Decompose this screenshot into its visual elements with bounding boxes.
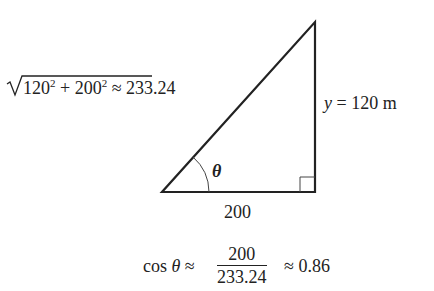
cos-fraction: 200 233.24 (217, 245, 267, 286)
theta-label: θ (212, 162, 221, 180)
approx-sign: ≈ (112, 78, 122, 98)
right-angle-marker (300, 177, 315, 192)
cos-text: cos (143, 256, 167, 276)
approx-sign-2: ≈ (284, 256, 294, 276)
result-value: 0.86 (298, 256, 330, 276)
equals-sign: = (337, 93, 347, 113)
vertical-side-value: 120 m (351, 93, 397, 113)
fraction-denominator: 233.24 (217, 265, 267, 286)
cos-func: cos θ ≈ (143, 257, 195, 275)
radicand-b: 200 (75, 78, 102, 98)
cos-result: ≈ 0.86 (284, 257, 330, 275)
vertical-side-label: y = 120 m (324, 94, 397, 112)
angle-arc (193, 157, 209, 192)
hypotenuse-label: 1202 + 2002 ≈ 233.24 (23, 79, 176, 97)
right-triangle (162, 22, 315, 192)
plus-sign: + (60, 78, 70, 98)
base-label: 200 (224, 203, 251, 221)
hypotenuse-value: 233.24 (126, 78, 176, 98)
fraction-numerator: 200 (226, 245, 257, 265)
approx-sign-1: ≈ (185, 256, 195, 276)
exponent-b: 2 (102, 77, 108, 89)
exponent-a: 2 (50, 77, 56, 89)
radicand-a: 120 (23, 78, 50, 98)
y-variable: y (324, 93, 332, 113)
theta-symbol: θ (172, 256, 181, 276)
